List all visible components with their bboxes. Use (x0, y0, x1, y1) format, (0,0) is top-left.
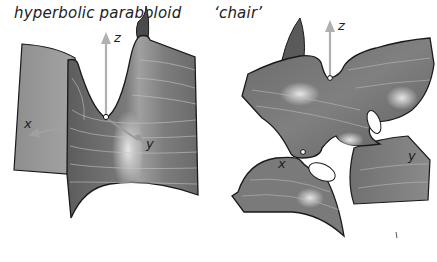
chair-figure: z x y (232, 18, 434, 238)
hp-x-axis-label: x (23, 116, 32, 131)
surfaces-diagram: z x y (0, 0, 437, 262)
chair-y-axis-label: y (407, 148, 416, 163)
hyperbolic-paraboloid-figure: z x y (14, 6, 198, 218)
chair-x-axis-label: x (277, 156, 286, 171)
chair-z-axis-label: z (337, 18, 346, 33)
hp-z-axis-label: z (113, 30, 122, 45)
hp-y-axis-label: y (145, 136, 154, 151)
